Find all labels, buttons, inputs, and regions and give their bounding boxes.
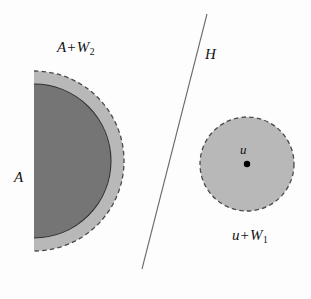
label-a-plus-w2-main: A xyxy=(57,39,66,55)
label-u-plus-w1-subscript: 1 xyxy=(262,234,267,245)
label-a: A xyxy=(14,170,23,185)
geometry-figure: A+W2 A H u u+W1 xyxy=(0,0,311,299)
label-a-plus-w2-operator: + xyxy=(66,39,76,55)
label-a-plus-w2-subscript: 2 xyxy=(89,46,94,57)
label-h-main: H xyxy=(205,46,216,62)
label-point-u: u xyxy=(240,143,247,156)
label-a-main: A xyxy=(14,169,23,185)
point-u-dot xyxy=(244,161,250,167)
label-u-plus-w1-operator: + xyxy=(240,227,250,243)
label-u-plus-w1-second: W xyxy=(250,227,263,243)
label-u-plus-w1-main: u xyxy=(232,227,240,243)
label-a-plus-w2-second: W xyxy=(77,39,90,55)
label-u-plus-w1: u+W1 xyxy=(232,228,268,245)
label-a-plus-w2: A+W2 xyxy=(57,40,94,57)
figure-canvas xyxy=(0,0,311,299)
label-point-u-main: u xyxy=(240,142,247,157)
label-h: H xyxy=(205,47,216,62)
hyperplane-line xyxy=(142,14,207,269)
